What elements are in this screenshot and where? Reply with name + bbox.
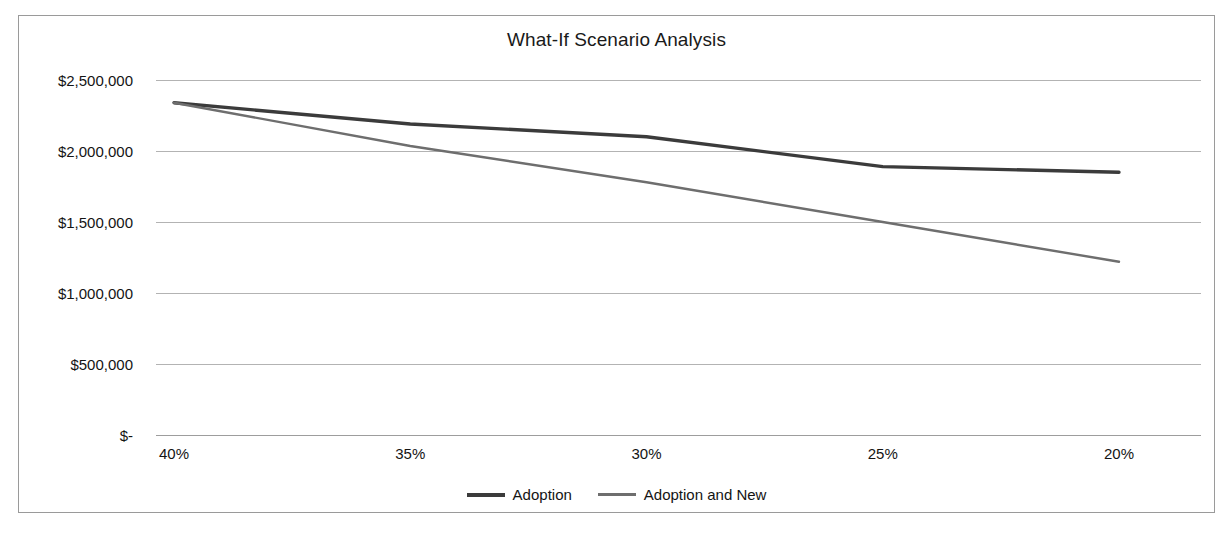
y-axis-tick-label: $1,500,000 [58, 214, 133, 231]
x-axis-tick-label: 35% [395, 445, 425, 462]
legend-line-icon [598, 493, 636, 496]
legend-item[interactable]: Adoption [467, 486, 572, 503]
chart-container: What-If Scenario Analysis $-$500,000$1,0… [18, 15, 1215, 513]
legend-item[interactable]: Adoption and New [598, 486, 767, 503]
y-axis-tick-label: $2,500,000 [58, 72, 133, 89]
legend-label: Adoption [513, 486, 572, 503]
series-line [174, 103, 1119, 173]
legend-label: Adoption and New [644, 486, 767, 503]
y-axis-tick-label: $500,000 [70, 356, 133, 373]
y-axis-tick-label: $2,000,000 [58, 143, 133, 160]
y-axis-tick-label: $1,000,000 [58, 285, 133, 302]
y-axis-tick-label: $- [120, 427, 133, 444]
x-axis-tick-label: 40% [159, 445, 189, 462]
series-lines [156, 80, 1201, 435]
x-axis-tick-label: 20% [1104, 445, 1134, 462]
y-axis-tick-labels: $-$500,000$1,000,000$1,500,000$2,000,000… [19, 80, 151, 435]
legend-line-icon [467, 493, 505, 497]
series-line [174, 103, 1119, 262]
x-axis-tick-label: 25% [868, 445, 898, 462]
x-axis-line [156, 435, 1201, 436]
chart-legend: AdoptionAdoption and New [19, 486, 1214, 503]
x-axis-tick-label: 30% [631, 445, 661, 462]
x-axis-tick-labels: 40%35%30%25%20% [156, 441, 1201, 467]
plot-area [156, 80, 1201, 435]
chart-title: What-If Scenario Analysis [19, 29, 1214, 51]
